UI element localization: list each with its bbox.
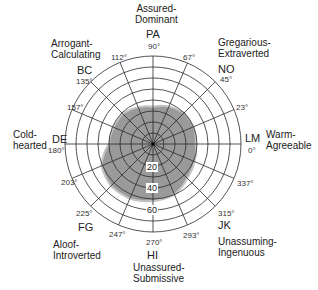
de-desc-line1: Cold- bbox=[13, 129, 47, 140]
pa-desc-line1: Assured- bbox=[135, 3, 178, 14]
octant-desc-fg: Aloof- Introverted bbox=[53, 239, 101, 261]
degree-270: 270° bbox=[146, 238, 163, 247]
octant-code-fg: FG bbox=[78, 221, 93, 233]
no-desc-line2: Extraverted bbox=[218, 48, 271, 59]
octant-code-hi: HI bbox=[147, 249, 158, 261]
lm-desc-line1: Warm- bbox=[266, 129, 312, 140]
jk-desc-line1: Unassuming- bbox=[218, 236, 277, 247]
degree-315: 315° bbox=[218, 209, 235, 218]
octant-desc-lm: Warm- Agreeable bbox=[266, 129, 312, 151]
degree-112: 112° bbox=[111, 53, 127, 62]
jk-desc-line2: Ingenuous bbox=[218, 247, 277, 258]
octant-desc-jk: Unassuming- Ingenuous bbox=[218, 236, 277, 258]
fg-desc-line1: Aloof- bbox=[53, 239, 101, 250]
ring-label-40: 40 bbox=[146, 183, 158, 193]
octant-desc-bc: Arrogant- Calculating bbox=[51, 38, 100, 60]
degree-157: 157° bbox=[67, 103, 84, 112]
degree-135: 135° bbox=[76, 77, 93, 86]
bc-desc-line1: Arrogant- bbox=[51, 38, 100, 49]
no-desc-line1: Gregarious- bbox=[218, 37, 271, 48]
octant-desc-pa: Assured- Dominant bbox=[135, 3, 178, 25]
degree-23: 23° bbox=[236, 103, 248, 112]
octant-code-lm: LM bbox=[245, 132, 260, 144]
pa-desc-line2: Dominant bbox=[135, 14, 178, 25]
hi-desc-line2: Submissive bbox=[133, 273, 185, 284]
fg-desc-line2: Introverted bbox=[53, 250, 101, 261]
degree-293: 293° bbox=[183, 231, 200, 240]
hi-desc-line1: Unassured- bbox=[133, 262, 185, 273]
ring-label-20: 20 bbox=[146, 162, 158, 172]
octant-code-jk: JK bbox=[218, 219, 231, 231]
ring-label-60: 60 bbox=[146, 205, 158, 215]
de-desc-line2: hearted bbox=[13, 140, 47, 151]
degree-0: 0° bbox=[248, 146, 256, 155]
octant-code-no: NO bbox=[218, 63, 235, 75]
octant-desc-no: Gregarious- Extraverted bbox=[218, 37, 271, 59]
octant-desc-hi: Unassured- Submissive bbox=[133, 262, 185, 284]
octant-desc-de: Cold- hearted bbox=[13, 129, 47, 151]
degree-67: 67° bbox=[183, 53, 195, 62]
degree-337: 337° bbox=[237, 179, 254, 188]
degree-203: 203° bbox=[61, 178, 78, 187]
octant-code-bc: BC bbox=[77, 64, 92, 76]
degree-90: 90° bbox=[148, 42, 160, 51]
degree-247: 247° bbox=[109, 230, 126, 239]
lm-desc-line2: Agreeable bbox=[266, 140, 312, 151]
octant-code-pa: PA bbox=[146, 28, 160, 40]
octant-code-de: DE bbox=[52, 133, 67, 145]
degree-225: 225° bbox=[76, 209, 93, 218]
degree-45: 45° bbox=[220, 75, 232, 84]
degree-180: 180° bbox=[48, 146, 65, 155]
bc-desc-line2: Calculating bbox=[51, 49, 100, 60]
